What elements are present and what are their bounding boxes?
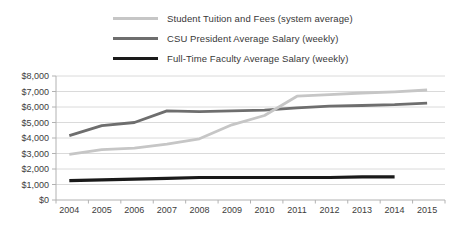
- series-line-2: [69, 177, 394, 181]
- x-axis-label: 2011: [287, 205, 306, 215]
- chart-screen: Student Tuition and Fees (system average…: [0, 0, 454, 227]
- x-axis-label: 2015: [417, 205, 437, 215]
- x-axis-label: 2014: [385, 205, 405, 215]
- line-chart: $0$1,000$2,000$3,000$4,000$5,000$6,000$7…: [0, 0, 454, 227]
- y-axis-label: $5,000: [21, 118, 49, 128]
- y-axis-label: $6,000: [21, 102, 49, 112]
- x-axis-label: 2004: [59, 205, 79, 215]
- y-axis-label: $3,000: [21, 149, 49, 159]
- x-axis-label: 2009: [222, 205, 242, 215]
- y-axis-label: $4,000: [21, 133, 49, 143]
- x-axis-label: 2006: [124, 205, 144, 215]
- x-axis-label: 2010: [254, 205, 274, 215]
- y-axis-label: $8,000: [21, 71, 49, 81]
- x-axis-label: 2013: [352, 205, 372, 215]
- y-axis-label: $7,000: [21, 87, 49, 97]
- y-axis-label: $0: [39, 195, 49, 205]
- x-axis-label: 2012: [320, 205, 340, 215]
- x-axis-label: 2007: [157, 205, 177, 215]
- y-axis-label: $1,000: [21, 180, 49, 190]
- x-axis-label: 2008: [189, 205, 209, 215]
- y-axis-label: $2,000: [21, 164, 49, 174]
- x-axis-label: 2005: [92, 205, 112, 215]
